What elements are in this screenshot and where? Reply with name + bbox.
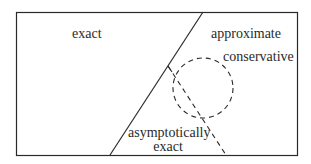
label-approximate: approximate [211, 27, 281, 41]
label-exact: exact [72, 27, 102, 41]
conservative-circle [173, 58, 233, 118]
label-asymptotically-exact: asymptotically exact [128, 126, 208, 154]
label-asymptotically: asymptotically [128, 126, 208, 140]
label-exact-overlap: exact [128, 140, 208, 154]
label-conservative: conservative [223, 50, 294, 64]
tick-mark [168, 66, 172, 72]
